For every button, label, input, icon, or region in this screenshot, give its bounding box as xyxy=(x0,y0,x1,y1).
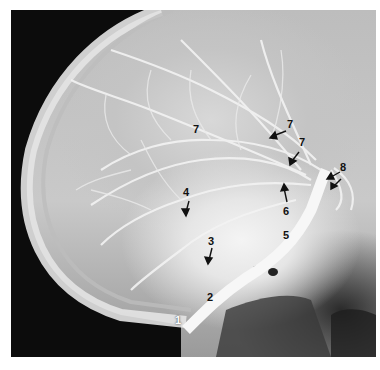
label-5: 5 xyxy=(283,230,289,241)
label-3: 3 xyxy=(208,236,214,247)
label-7b: 7 xyxy=(287,119,293,130)
label-1: 1 xyxy=(175,315,181,326)
label-7a: 7 xyxy=(193,124,199,135)
angiogram-image xyxy=(11,10,376,357)
label-2: 2 xyxy=(207,292,213,303)
label-7c: 7 xyxy=(299,137,305,148)
label-4: 4 xyxy=(183,187,189,198)
angiogram-drawing xyxy=(11,10,376,357)
label-6: 6 xyxy=(283,206,289,217)
label-8: 8 xyxy=(340,162,346,173)
